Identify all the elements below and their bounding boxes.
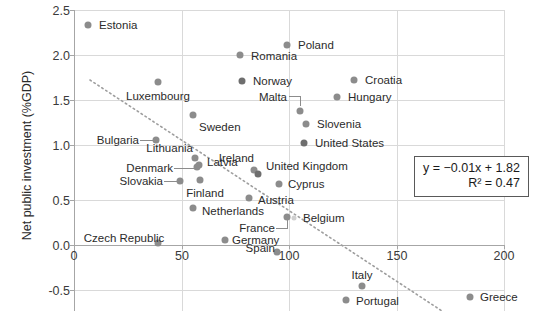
y-tick-mark [70,200,74,201]
data-point-label: Romania [251,50,297,62]
x-tick-mark [182,245,183,249]
regression-equation-box: y = −0.01x + 1.82 R² = 0.47 [414,156,529,197]
x-tick-mark [504,245,505,249]
data-point[interactable] [359,283,366,290]
data-point[interactable] [194,164,201,171]
r-squared-value: R² = 0.47 [423,176,520,191]
data-point-label: Poland [298,39,334,51]
data-point-label: Ireland [219,152,254,164]
data-point-label: France [239,222,275,234]
regression-equation: y = −0.01x + 1.82 [423,161,520,176]
data-point[interactable] [197,177,204,184]
data-point-label: Finland [186,187,224,199]
data-point[interactable] [284,42,291,49]
y-axis-line [74,10,75,311]
data-point[interactable] [301,140,308,147]
data-point[interactable] [190,205,197,212]
label-leader [289,96,301,97]
data-point[interactable] [297,108,304,115]
x-tick-mark [289,245,290,249]
data-point-label: Greece [480,291,518,303]
label-leader [300,96,301,106]
data-point[interactable] [351,77,358,84]
data-point-label: Bulgaria [97,134,139,146]
data-point-label: Norway [253,75,292,87]
y-tick-mark [70,55,74,56]
data-point-label: Lithuania [146,142,193,154]
data-point-label: Sweden [199,121,241,133]
x-tick-label: 50 [175,249,189,263]
data-point[interactable] [190,112,197,119]
data-point-label: Croatia [365,74,402,86]
y-axis-title: Net public investment (%GDP) [18,0,36,311]
data-point-label: Slovenia [317,118,361,130]
x-tick-label: 100 [279,249,300,263]
data-point[interactable] [177,178,184,185]
data-point[interactable] [239,78,246,85]
gridline-x-150 [397,10,398,311]
data-point-label: Czech Republic [84,232,165,244]
data-point[interactable] [155,79,162,86]
data-point[interactable] [303,121,310,128]
x-tick-mark [397,245,398,249]
data-point[interactable] [343,297,350,304]
data-point-label: Italy [351,269,372,281]
data-point-label: Estonia [99,19,137,31]
scatter-plot-figure: 2.5 2.0 1.5 1.0 0.5 0.0 -0.5 0 50 100 15… [0,0,552,311]
data-point[interactable] [467,294,474,301]
label-leader [276,228,288,229]
x-tick-mark [74,245,75,249]
data-point[interactable] [246,195,253,202]
data-point-label: United Kingdom [266,160,348,172]
label-leader [164,181,177,182]
y-tick-mark [70,145,74,146]
data-point-label: Portugal [356,295,399,307]
data-point-label: Cyprus [288,178,324,190]
data-point[interactable] [237,52,244,59]
data-point-label: United States [315,137,384,149]
x-tick-label: 200 [494,249,515,263]
data-point[interactable] [192,155,199,162]
label-leader [174,168,194,169]
label-leader [140,140,153,141]
data-point[interactable] [292,216,297,221]
data-point[interactable] [255,171,262,178]
data-point-label: Denmark [126,162,173,174]
data-point-label: Malta [259,91,287,103]
data-point-label: Spain [246,242,275,254]
y-tick-mark [70,10,74,11]
data-point[interactable] [85,22,92,29]
data-point-label: Slovakia [120,175,163,187]
data-point[interactable] [334,94,341,101]
x-tick-label: 150 [387,249,408,263]
data-point-label: Belgium [303,212,345,224]
data-point-label: Luxembourg [126,90,190,102]
data-point-label: Netherlands [202,205,264,217]
y-tick-mark [70,100,74,101]
data-point[interactable] [222,237,229,244]
gridline-x-50 [182,10,183,311]
label-leader [287,217,288,228]
x-tick-label: 0 [71,249,78,263]
y-tick-mark [70,290,74,291]
data-point[interactable] [276,181,283,188]
data-point-label: Hungary [348,91,391,103]
